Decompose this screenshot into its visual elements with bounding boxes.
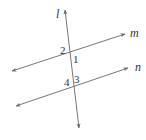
diagram-canvas: l m n 2 1 4 3: [0, 0, 146, 140]
angle-label-4: 4: [64, 76, 70, 88]
line-label-n: n: [135, 60, 141, 74]
line-label-m: m: [130, 26, 139, 40]
transversal-line-l: [65, 10, 79, 128]
line-n: [16, 68, 128, 106]
line-label-l: l: [56, 7, 60, 21]
angle-label-2: 2: [60, 44, 66, 56]
angle-label-1: 1: [73, 53, 79, 65]
angle-label-3: 3: [74, 73, 80, 85]
